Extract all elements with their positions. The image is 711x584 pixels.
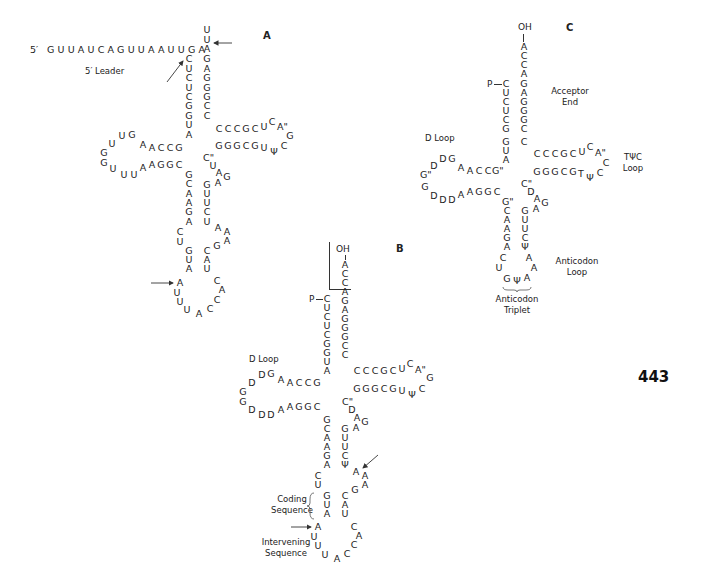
arrow-icon	[363, 455, 378, 468]
trna-figure: A 5′ GUUAUCAGUUAAUUGA 5′ Leader C U C U …	[0, 0, 711, 584]
page-number: 443	[638, 368, 669, 386]
arrow-icon	[167, 61, 183, 82]
arrows-layer	[0, 0, 711, 584]
brace-icon	[503, 287, 531, 292]
brace-icon	[307, 493, 314, 519]
